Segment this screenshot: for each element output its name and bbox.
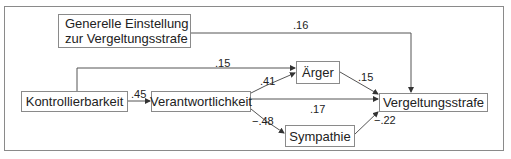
coef-control-anger: .15 — [215, 57, 230, 69]
node-retribution: Vergeltungsstrafe — [379, 93, 488, 112]
node-anger-label: Ärger — [302, 65, 334, 80]
coef-responsibility-retribution: .17 — [310, 103, 325, 115]
coef-general-retribution: .16 — [293, 19, 308, 31]
node-responsibility-label: Verantwortlichkeit — [150, 94, 252, 109]
node-general-attitude-line2: zur Vergeltungsstrafe — [65, 31, 188, 46]
node-retribution-label: Vergeltungsstrafe — [383, 95, 484, 110]
coef-responsibility-sympathy: −.48 — [252, 115, 274, 127]
node-anger: Ärger — [296, 61, 340, 84]
coef-responsibility-anger: .41 — [260, 75, 275, 87]
node-general-attitude-line1: Generelle Einstellung — [65, 16, 189, 31]
node-responsibility: Verantwortlichkeit — [151, 91, 251, 112]
coef-sympathy-retribution: −.22 — [374, 114, 396, 126]
node-general-attitude: Generelle Einstellung zur Vergeltungsstr… — [58, 14, 191, 48]
node-controllability-label: Kontrollierbarkeit — [26, 94, 124, 109]
node-sympathy: Sympathie — [285, 125, 355, 147]
coef-anger-retribution: .15 — [358, 71, 373, 83]
coef-control-responsibility: .45 — [131, 88, 146, 100]
node-controllability: Kontrollierbarkeit — [21, 91, 128, 112]
node-sympathy-label: Sympathie — [289, 129, 350, 144]
